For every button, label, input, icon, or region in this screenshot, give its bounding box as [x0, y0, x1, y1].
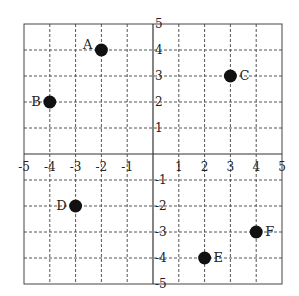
x-tick-label: -3: [70, 160, 82, 174]
x-tick-label: -5: [18, 160, 30, 174]
y-tick-label: 4: [155, 43, 163, 57]
x-tick-label: 3: [227, 160, 235, 174]
point-b: B: [31, 94, 56, 109]
point-marker: [198, 252, 211, 265]
x-tick-label: 1: [175, 160, 183, 174]
y-tick-label: 2: [155, 95, 163, 109]
point-c: C: [224, 68, 250, 83]
coordinate-plane: -5-4-3-2-112345 54321-1-2-3-4-5 ABCDEF: [0, 0, 299, 296]
x-tick-label: -1: [121, 160, 133, 174]
point-label: D: [56, 198, 66, 213]
point-marker: [43, 96, 56, 109]
x-tick-label: -2: [96, 160, 108, 174]
point-a: A: [82, 37, 108, 57]
point-label: F: [265, 224, 274, 239]
point-marker: [224, 70, 237, 83]
y-tick-label: 3: [155, 69, 163, 83]
x-tick-label: 2: [201, 160, 209, 174]
y-tick-label: -2: [155, 199, 167, 213]
point-marker: [95, 44, 108, 57]
x-tick-label: 5: [278, 160, 286, 174]
point-marker: [250, 226, 263, 239]
axes: [24, 24, 282, 284]
y-tick-label: -4: [155, 251, 167, 265]
y-tick-label: -3: [155, 225, 167, 239]
x-tick-labels: -5-4-3-2-112345: [18, 160, 286, 174]
point-label: E: [214, 250, 224, 265]
point-f: F: [250, 224, 275, 239]
point-label: C: [239, 68, 249, 83]
y-tick-label: 5: [155, 17, 163, 31]
point-label: B: [31, 94, 41, 109]
x-tick-label: 4: [252, 160, 260, 174]
y-tick-label: 1: [155, 121, 163, 135]
point-label: A: [82, 37, 93, 52]
point-e: E: [198, 250, 223, 265]
point-d: D: [56, 198, 82, 213]
y-tick-label: -1: [155, 173, 167, 187]
point-marker: [69, 200, 82, 213]
x-tick-label: -4: [44, 160, 56, 174]
y-tick-label: -5: [155, 277, 167, 291]
